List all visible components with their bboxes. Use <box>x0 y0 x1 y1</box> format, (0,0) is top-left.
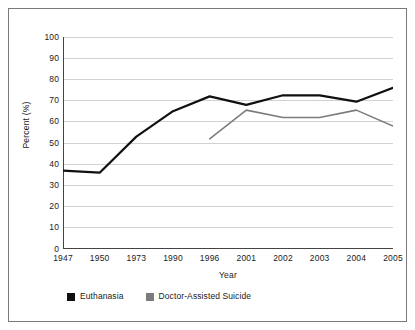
chart-plot-svg <box>63 37 393 249</box>
y-tick-label: 100 <box>33 33 59 42</box>
x-tick-label: 1950 <box>80 253 120 263</box>
x-axis-title: Year <box>63 270 393 280</box>
x-tick-label: 2005 <box>373 253 413 263</box>
chart-legend: EuthanasiaDoctor-Assisted Suicide <box>67 292 251 301</box>
chart-figure: 0102030405060708090100 Percent (%) 19471… <box>0 0 415 330</box>
legend-item[interactable]: Doctor-Assisted Suicide <box>146 292 252 301</box>
y-axis-title: Percent (%) <box>21 80 31 170</box>
x-tick-label: 1990 <box>153 253 193 263</box>
legend-label: Doctor-Assisted Suicide <box>159 292 252 301</box>
x-tick-label: 2003 <box>300 253 340 263</box>
x-tick-label: 1973 <box>116 253 156 263</box>
y-tick-label: 80 <box>33 75 59 84</box>
y-tick-label: 50 <box>33 139 59 148</box>
x-tick-label: 1996 <box>190 253 230 263</box>
x-axis-tick-labels: 1947195019731990199620012002200320042005 <box>63 253 399 267</box>
x-tick-label: 2004 <box>336 253 376 263</box>
y-tick-label: 10 <box>33 223 59 232</box>
x-tick-label: 2001 <box>226 253 266 263</box>
series-line-doctor-assisted-suicide <box>210 110 393 139</box>
legend-item[interactable]: Euthanasia <box>67 292 124 301</box>
y-tick-label: 70 <box>33 96 59 105</box>
y-tick-label: 40 <box>33 160 59 169</box>
y-tick-label: 60 <box>33 117 59 126</box>
x-tick-label: 1947 <box>43 253 83 263</box>
y-tick-label: 20 <box>33 202 59 211</box>
legend-swatch-icon <box>67 293 75 301</box>
plot-area <box>63 37 393 249</box>
legend-swatch-icon <box>146 293 154 301</box>
x-tick-label: 2002 <box>263 253 303 263</box>
y-axis-tick-labels: 0102030405060708090100 <box>29 37 59 249</box>
y-tick-label: 30 <box>33 181 59 190</box>
y-tick-label: 90 <box>33 54 59 63</box>
legend-label: Euthanasia <box>80 292 124 301</box>
